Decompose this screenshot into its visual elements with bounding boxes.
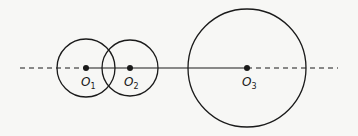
center-point-o1 — [83, 65, 89, 71]
label-o3: O3 — [242, 75, 257, 91]
center-point-o3 — [244, 65, 250, 71]
label-o1: O1 — [81, 75, 96, 91]
circles-diagram: O1 O2 O3 — [0, 0, 358, 136]
label-o2: O2 — [124, 75, 139, 91]
center-point-o2 — [127, 65, 133, 71]
